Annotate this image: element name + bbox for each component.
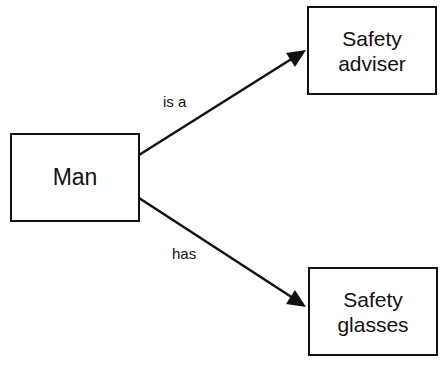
arrowhead-icon bbox=[286, 50, 306, 67]
node-safety-glasses: Safety glasses bbox=[308, 267, 438, 356]
node-safety-adviser: Safety adviser bbox=[307, 6, 437, 95]
edge-label-is-a: is a bbox=[163, 93, 186, 110]
edge-label-has: has bbox=[172, 245, 196, 262]
node-safety-adviser-label: Safety adviser bbox=[338, 26, 406, 76]
node-man-label: Man bbox=[53, 165, 98, 190]
node-man: Man bbox=[10, 133, 140, 222]
edge-has bbox=[139, 198, 306, 307]
node-safety-glasses-label: Safety glasses bbox=[337, 287, 408, 337]
arrowhead-icon bbox=[286, 290, 306, 307]
